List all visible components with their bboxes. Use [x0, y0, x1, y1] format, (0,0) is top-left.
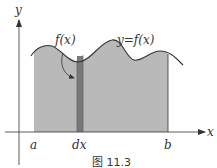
y-axis-label: y	[14, 3, 22, 17]
area-under-curve	[34, 40, 168, 132]
upper-bound-label: b	[164, 138, 172, 152]
curve-equation-label: y=f(x)	[116, 33, 155, 47]
integral-area-diagram: y x f(x) y=f(x) a dx b 图 11.3	[0, 0, 217, 168]
figure-caption: 图 11.3	[92, 156, 131, 168]
x-axis-label: x	[207, 125, 214, 139]
function-value-label: f(x)	[54, 33, 76, 47]
dx-strip	[77, 56, 83, 132]
lower-bound-label: a	[30, 138, 37, 152]
differential-label: dx	[72, 138, 87, 152]
